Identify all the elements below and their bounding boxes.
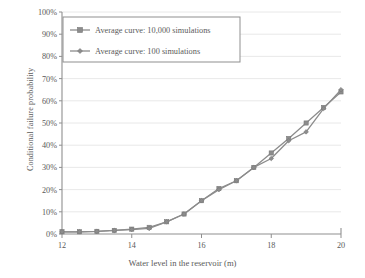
- y-tick-label: 100%: [38, 8, 57, 17]
- y-tick-label: 30%: [42, 163, 57, 172]
- legend-label: Average curve: 10,000 simulations: [95, 26, 211, 35]
- y-tick-label: 0%: [46, 230, 57, 239]
- legend-label: Average curve: 100 simulations: [95, 47, 200, 56]
- plot-area: 0%10%20%30%40%50%60%70%80%90%100% 121416…: [0, 0, 365, 278]
- x-tick-label: 16: [197, 241, 205, 250]
- x-axis-ticks: 1214161820: [58, 234, 345, 250]
- y-tick-label: 20%: [42, 186, 57, 195]
- x-tick-label: 20: [337, 241, 345, 250]
- x-tick-label: 18: [267, 241, 275, 250]
- y-tick-label: 70%: [42, 75, 57, 84]
- square-marker-icon: [78, 28, 83, 33]
- chart-legend: Average curve: 10,000 simulationsAverage…: [63, 17, 240, 62]
- y-tick-label: 90%: [42, 30, 57, 39]
- series-10000-simulations: [60, 90, 343, 234]
- y-tick-label: 60%: [42, 97, 57, 106]
- x-tick-label: 12: [58, 241, 66, 250]
- chart-container: Conditional failure probability Water le…: [0, 0, 365, 278]
- x-tick-label: 14: [128, 241, 136, 250]
- y-tick-label: 10%: [42, 208, 57, 217]
- y-tick-label: 40%: [42, 141, 57, 150]
- y-tick-label: 50%: [42, 119, 57, 128]
- y-tick-label: 80%: [42, 52, 57, 61]
- y-axis-ticks: 0%10%20%30%40%50%60%70%80%90%100%: [38, 8, 62, 239]
